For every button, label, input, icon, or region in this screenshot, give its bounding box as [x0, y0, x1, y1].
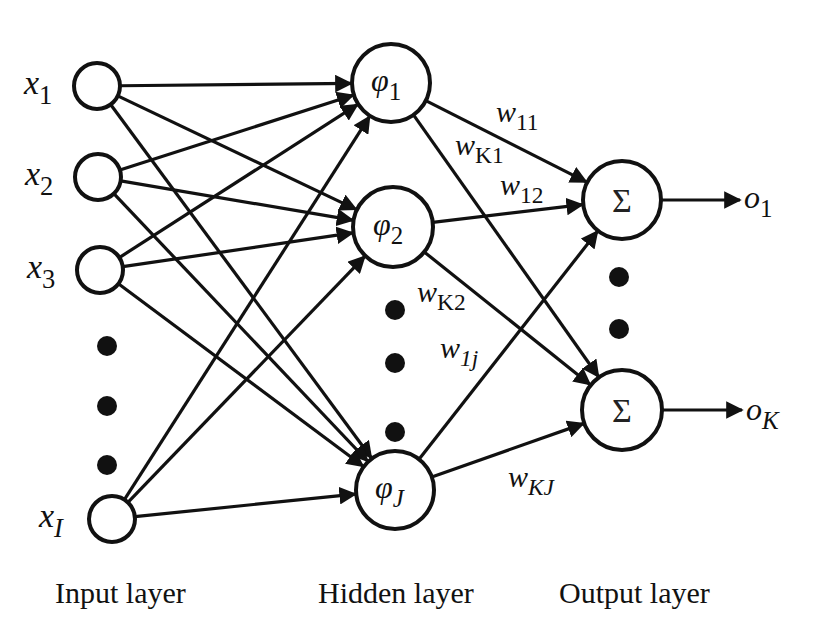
weight-label-w12: w12 — [500, 168, 543, 208]
edge-x2-h1 — [120, 95, 353, 170]
ellipsis-dot — [385, 422, 405, 442]
edge-x3-hJ — [118, 284, 362, 466]
weight-label-wKJ: wKJ — [508, 460, 556, 500]
input-node-x3 — [77, 247, 123, 293]
ellipsis-dot — [385, 353, 405, 373]
edge-x2-h2 — [121, 181, 353, 220]
ellipsis-dot — [385, 300, 405, 320]
edge-xI-h2 — [128, 257, 365, 503]
weight-label-w11: w11 — [496, 95, 539, 135]
hidden-layer-label: Hidden layer — [318, 576, 474, 609]
ellipsis-dot — [97, 336, 117, 356]
network-nodes: x1x2x3xIφ1φ2φJΣΣ — [23, 44, 662, 543]
edge-x3-h1 — [119, 105, 357, 258]
output-arrows: o1oK — [661, 179, 780, 434]
output-label-o1: o1 — [744, 179, 772, 222]
input-label-xI: xI — [38, 497, 64, 543]
input-node-xI — [89, 496, 135, 542]
ellipsis-dot — [609, 267, 629, 287]
input-node-x2 — [75, 154, 121, 200]
input-layer-label: Input layer — [55, 576, 186, 609]
sigma-symbol-s1: Σ — [612, 182, 632, 219]
input-label-x3: x3 — [26, 248, 55, 294]
output-layer-label: Output layer — [559, 576, 710, 609]
ellipsis-dot — [609, 319, 629, 339]
rbf-network-diagram: x1x2x3xIφ1φ2φJΣΣ w11wK1w12wK2w1jwKJ o1oK… — [0, 0, 828, 635]
sigma-symbol-sK: Σ — [612, 392, 632, 429]
ellipsis-dots — [97, 267, 629, 475]
ellipsis-dot — [97, 455, 117, 475]
edge-x1-hJ — [111, 105, 372, 458]
ellipsis-dot — [97, 396, 117, 416]
connection-edges — [111, 83, 599, 516]
weight-label-w1j: w1j — [440, 331, 478, 371]
edge-xI-hJ — [135, 494, 355, 517]
layer-labels: Input layer Hidden layer Output layer — [55, 576, 710, 609]
output-label-oK: oK — [746, 391, 780, 434]
input-label-x2: x2 — [24, 155, 53, 201]
weight-label-wK1: wK1 — [455, 128, 504, 168]
input-label-x1: x1 — [23, 64, 52, 110]
input-node-x1 — [74, 63, 120, 109]
edge-x1-h1 — [120, 83, 351, 85]
edge-x2-hJ — [114, 194, 368, 461]
edge-h2-s1 — [433, 205, 583, 223]
